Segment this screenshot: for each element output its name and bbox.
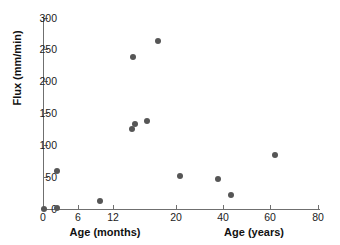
data-point bbox=[97, 198, 103, 204]
x-tick-label: 80 bbox=[312, 211, 324, 223]
data-point bbox=[54, 168, 60, 174]
data-point bbox=[54, 205, 60, 211]
data-point bbox=[177, 173, 183, 179]
x-tick-label: 40 bbox=[217, 211, 229, 223]
data-point bbox=[228, 192, 234, 198]
data-point bbox=[130, 54, 136, 60]
x-tick-mark bbox=[223, 205, 224, 209]
data-point bbox=[144, 118, 150, 124]
data-point bbox=[272, 152, 278, 158]
x-axis-title-months: Age (months) bbox=[70, 226, 141, 238]
x-tick-mark bbox=[78, 205, 79, 209]
y-tick-label: 100 bbox=[39, 139, 57, 151]
x-tick-label: 0 bbox=[40, 211, 46, 223]
x-tick-label: 12 bbox=[107, 211, 119, 223]
data-point bbox=[155, 38, 161, 44]
x-tick-label: 60 bbox=[264, 211, 276, 223]
data-point bbox=[132, 121, 138, 127]
data-point bbox=[215, 176, 221, 182]
x-tick-mark bbox=[318, 205, 319, 209]
data-point bbox=[41, 206, 47, 212]
y-tick-label: 300 bbox=[39, 12, 57, 24]
x-tick-mark bbox=[113, 205, 114, 209]
x-axis-title-years: Age (years) bbox=[224, 226, 284, 238]
y-tick-label: 150 bbox=[39, 107, 57, 119]
x-tick-mark bbox=[176, 205, 177, 209]
x-tick-label: 6 bbox=[75, 211, 81, 223]
y-axis-title: Flux (mm/min) bbox=[11, 13, 23, 123]
y-tick-label: 250 bbox=[39, 43, 57, 55]
y-tick-label: 200 bbox=[39, 75, 57, 87]
x-tick-label: 20 bbox=[170, 211, 182, 223]
x-axis-line bbox=[43, 209, 320, 210]
scatter-plot: 050100150200250300 061220406080 Flux (mm… bbox=[0, 0, 340, 245]
x-tick-mark bbox=[270, 205, 271, 209]
